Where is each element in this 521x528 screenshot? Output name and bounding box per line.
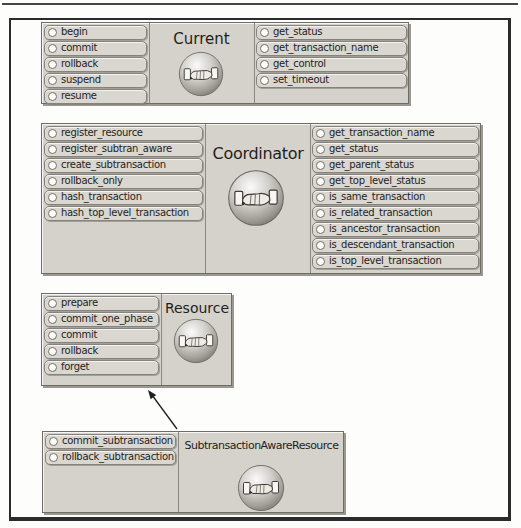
method-pill: prepare (44, 296, 159, 311)
method-pill: create_subtransaction (44, 158, 203, 173)
radio-circle-icon (48, 76, 57, 85)
method-pill: get_parent_status (312, 158, 479, 173)
radio-circle-icon (260, 76, 269, 85)
interface-title: Coordinator (205, 144, 311, 163)
page-top-rule (2, 3, 518, 5)
method-pill: register_subtran_aware (44, 142, 203, 157)
method-pill: hash_transaction (44, 190, 203, 205)
method-pill: hash_top_level_transaction (44, 206, 203, 221)
radio-circle-icon (48, 299, 57, 308)
method-pill: get_top_level_status (312, 174, 479, 189)
method-label: hash_transaction (61, 192, 142, 203)
method-label: resume (61, 91, 97, 102)
method-label: register_resource (61, 128, 143, 139)
interface-panel-subtransaction-aware-resource: commit_subtransaction rollback_subtransa… (42, 431, 344, 513)
radio-circle-icon (49, 453, 58, 462)
method-pill: is_related_transaction (312, 206, 479, 221)
radio-circle-icon (260, 60, 269, 69)
method-pill: rollback (44, 57, 147, 72)
method-list: commit_subtransaction rollback_subtransa… (45, 434, 176, 465)
method-pill: commit (44, 41, 147, 56)
method-pill: get_transaction_name (256, 41, 407, 56)
method-label: commit (61, 330, 97, 341)
radio-circle-icon (316, 209, 325, 218)
radio-circle-icon (48, 161, 57, 170)
method-label: register_subtran_aware (61, 144, 172, 155)
method-label: begin (61, 27, 87, 38)
radio-circle-icon (316, 177, 325, 186)
radio-circle-icon (48, 92, 57, 101)
radio-circle-icon (48, 193, 57, 202)
method-label: create_subtransaction (61, 160, 166, 171)
method-label: hash_top_level_transaction (61, 208, 189, 219)
method-pill: get_status (312, 142, 479, 157)
method-list: register_resource register_subtran_aware… (44, 126, 203, 221)
method-label: is_descendant_transaction (329, 240, 454, 251)
method-pill: suspend (44, 73, 147, 88)
radio-circle-icon (48, 177, 57, 186)
column-divider (254, 23, 255, 103)
interface-title: Resource (161, 300, 233, 316)
handshake-icon (237, 464, 285, 512)
radio-circle-icon (260, 28, 269, 37)
method-label: suspend (61, 75, 101, 86)
radio-circle-icon (48, 363, 57, 372)
method-pill: is_ancestor_transaction (312, 222, 479, 237)
method-pill: commit_one_phase (44, 312, 159, 327)
interface-panel-resource: prepare commit_one_phase commit rollback… (41, 293, 232, 386)
radio-circle-icon (48, 145, 57, 154)
method-label: is_ancestor_transaction (329, 224, 440, 235)
method-label: get_status (329, 144, 378, 155)
method-pill: get_status (256, 25, 407, 40)
method-label: get_parent_status (329, 160, 414, 171)
radio-circle-icon (48, 28, 57, 37)
method-pill: commit_subtransaction (45, 434, 176, 449)
method-label: get_transaction_name (329, 128, 434, 139)
method-label: is_related_transaction (329, 208, 432, 219)
method-pill: rollback (44, 344, 159, 359)
method-pill: register_resource (44, 126, 203, 141)
radio-circle-icon (48, 347, 57, 356)
inheritance-arrow (140, 385, 185, 431)
method-pill: resume (44, 89, 147, 104)
radio-circle-icon (48, 44, 57, 53)
radio-circle-icon (48, 209, 57, 218)
interface-panel-coordinator: register_resource register_subtran_aware… (41, 123, 481, 274)
method-pill: get_transaction_name (312, 126, 479, 141)
method-label: get_top_level_status (329, 176, 425, 187)
method-label: commit_subtransaction (62, 436, 173, 447)
radio-circle-icon (316, 193, 325, 202)
method-pill: is_descendant_transaction (312, 238, 479, 253)
radio-circle-icon (260, 44, 269, 53)
radio-circle-icon (48, 129, 57, 138)
method-pill: is_same_transaction (312, 190, 479, 205)
method-label: rollback_only (61, 176, 123, 187)
method-list: begin commit rollback suspend resume (44, 25, 147, 104)
method-label: rollback_subtransaction (62, 452, 174, 463)
handshake-icon (173, 318, 219, 364)
method-pill: set_timeout (256, 73, 407, 88)
method-label: get_control (273, 59, 326, 70)
radio-circle-icon (316, 225, 325, 234)
method-label: set_timeout (273, 75, 329, 86)
method-label: rollback (61, 346, 98, 357)
method-pill: commit (44, 328, 159, 343)
radio-circle-icon (316, 145, 325, 154)
radio-circle-icon (316, 161, 325, 170)
interface-panel-current: begin commit rollback suspend resume Cur… (41, 22, 409, 104)
method-label: is_same_transaction (329, 192, 425, 203)
method-list: get_status get_transaction_name get_cont… (256, 25, 407, 88)
method-label: get_transaction_name (273, 43, 378, 54)
method-label: forget (61, 362, 89, 373)
method-pill: rollback_subtransaction (45, 450, 176, 465)
method-label: rollback (61, 59, 98, 70)
method-pill: forget (44, 360, 159, 375)
method-pill: rollback_only (44, 174, 203, 189)
method-pill: begin (44, 25, 147, 40)
method-label: commit (61, 43, 97, 54)
radio-circle-icon (316, 129, 325, 138)
radio-circle-icon (49, 437, 58, 446)
method-label: commit_one_phase (61, 314, 153, 325)
radio-circle-icon (48, 331, 57, 340)
method-pill: is_top_level_transaction (312, 254, 479, 269)
